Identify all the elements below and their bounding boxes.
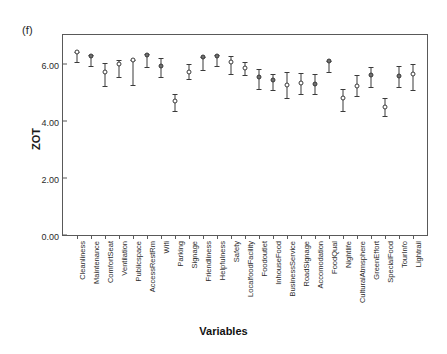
panel-label: (f): [22, 24, 33, 36]
x-axis-tick-label: Foodoutlet: [260, 241, 269, 276]
x-axis-tick-label: RoadSignage: [302, 241, 311, 286]
error-bar-cap-upper: [355, 75, 360, 76]
y-axis-tick-label: 2.00: [41, 175, 63, 185]
x-axis-tick-mark: [189, 235, 190, 239]
x-axis-tick-label: TourInfo: [400, 241, 409, 268]
data-point-marker: [89, 53, 94, 58]
data-point-marker: [299, 80, 304, 85]
x-axis-tick-mark: [259, 235, 260, 239]
data-point-marker: [145, 53, 150, 58]
x-axis-tick-mark: [161, 235, 162, 239]
error-bar-cap-lower: [341, 111, 346, 112]
data-point-marker: [229, 60, 234, 65]
error-bar: [413, 64, 414, 90]
error-bar-cap-upper: [285, 72, 290, 73]
x-axis-tick-label: Nightlife: [344, 241, 353, 268]
x-axis-tick-label: Publicspace: [134, 241, 143, 281]
x-axis-tick-mark: [273, 235, 274, 239]
x-axis-tick-label: Wifi: [162, 241, 171, 254]
x-axis-tick-mark: [245, 235, 246, 239]
x-axis-tick-label: Lightrail: [414, 241, 423, 267]
error-bar-cap-lower: [285, 98, 290, 99]
error-bar: [231, 56, 232, 75]
data-point-marker: [285, 83, 290, 88]
x-axis-tick-label: AccessRestRm: [148, 241, 157, 292]
x-axis-tick-label: Parking: [176, 241, 185, 266]
x-axis-tick-mark: [287, 235, 288, 239]
error-bar-cap-upper: [299, 73, 304, 74]
x-axis-tick-mark: [77, 235, 78, 239]
x-axis-tick-label: SpecialFood: [386, 241, 395, 283]
x-axis-tick-mark: [147, 235, 148, 239]
x-axis-tick-mark: [385, 235, 386, 239]
x-axis-tick-mark: [105, 235, 106, 239]
x-axis-tick-label: FoodQual: [330, 241, 339, 274]
x-axis-tick-mark: [231, 235, 232, 239]
data-point-marker: [397, 73, 402, 78]
error-bar-cap-upper: [411, 64, 416, 65]
data-point-marker: [341, 95, 346, 100]
error-bar-cap-upper: [313, 74, 318, 75]
data-point-marker: [187, 69, 192, 74]
x-axis-tick-label: Friendliness: [204, 241, 213, 281]
error-bar-cap-lower: [229, 74, 234, 75]
x-axis-tick-mark: [357, 235, 358, 239]
x-axis-tick-mark: [329, 235, 330, 239]
x-axis-tick-label: Helpfulness: [218, 241, 227, 280]
x-axis-tick-mark: [413, 235, 414, 239]
x-axis-tick-label: GreenEffort: [372, 241, 381, 280]
data-point-marker: [131, 58, 136, 63]
error-bar-cap-lower: [397, 87, 402, 88]
data-point-marker: [257, 75, 262, 80]
data-point-marker: [355, 83, 360, 88]
error-bar-cap-upper: [257, 69, 262, 70]
error-bar-cap-lower: [103, 86, 108, 87]
error-bar-cap-upper: [229, 56, 234, 57]
y-axis-tick: 0.00: [41, 226, 63, 244]
y-axis-tick: 2.00: [41, 169, 63, 187]
x-axis-tick-label: ComfortSeat: [106, 241, 115, 283]
error-bar-cap-upper: [341, 89, 346, 90]
x-axis-tick-mark: [217, 235, 218, 239]
x-axis-tick-label: Safety: [232, 241, 241, 262]
y-axis-tick-label: 6.00: [41, 61, 63, 71]
x-axis-tick-label: Accomodation: [316, 241, 325, 289]
error-bar-cap-lower: [355, 96, 360, 97]
x-axis-tick-mark: [301, 235, 302, 239]
y-axis-tick-label: 0.00: [41, 232, 63, 242]
error-bar-cap-lower: [257, 89, 262, 90]
x-axis-tick-mark: [399, 235, 400, 239]
x-axis-tick-mark: [343, 235, 344, 239]
figure-panel-f: (f) ZOT 0.002.004.006.00 CleanlinessMain…: [0, 0, 447, 354]
y-axis-tick: 6.00: [41, 55, 63, 73]
x-axis-tick-label: BusinessService: [288, 241, 297, 296]
data-point-marker: [313, 81, 318, 86]
error-bar: [133, 60, 134, 85]
data-point-marker: [327, 59, 332, 64]
error-bar-cap-lower: [75, 62, 80, 63]
error-bar-cap-lower: [327, 72, 332, 73]
error-bar-cap-upper: [159, 58, 164, 59]
data-point-marker: [159, 63, 164, 68]
data-point-marker: [75, 50, 80, 55]
x-axis-tick-mark: [371, 235, 372, 239]
data-point-marker: [215, 53, 220, 58]
error-bar-cap-upper: [187, 64, 192, 65]
error-bar-cap-upper: [243, 62, 248, 63]
data-point-marker: [411, 72, 416, 77]
data-point-marker: [173, 99, 178, 104]
error-bar-cap-lower: [299, 94, 304, 95]
error-bar-cap-lower: [187, 79, 192, 80]
error-bar-cap-upper: [397, 66, 402, 67]
x-axis-tick-mark: [133, 235, 134, 239]
data-point-marker: [369, 73, 374, 78]
x-axis-tick-label: Cleanliness: [78, 241, 87, 280]
x-axis-tick-label: InhouseFood: [274, 241, 283, 285]
x-axis-tick-mark: [119, 235, 120, 239]
error-bar-cap-upper: [383, 98, 388, 99]
x-axis-tick-label: Maintenance: [92, 241, 101, 284]
y-axis-tick: 4.00: [41, 112, 63, 130]
data-point-marker: [117, 62, 122, 67]
plot-area: 0.002.004.006.00 CleanlinessMaintenanceC…: [62, 34, 428, 236]
error-bar-cap-lower: [215, 66, 220, 67]
